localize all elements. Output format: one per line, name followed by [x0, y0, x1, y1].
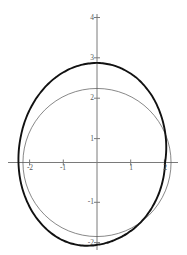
y-tick-label-2: 2 [90, 94, 94, 102]
plot-canvas: 4 3 2 1 -1 -2 -2 -1 1 2 [0, 0, 187, 255]
x-tick-label-neg1: -1 [60, 164, 66, 172]
x-tick-label-2: 2 [163, 164, 167, 172]
plot-svg [0, 0, 187, 255]
y-tick-label-1: 1 [90, 135, 94, 143]
y-tick-label-neg2: -2 [88, 239, 94, 247]
x-tick-label-1: 1 [129, 164, 133, 172]
y-tick-label-neg1: -1 [88, 198, 94, 206]
y-tick-label-3: 3 [90, 54, 94, 62]
x-tick-label-neg2: -2 [27, 164, 33, 172]
y-tick-label-4: 4 [90, 14, 94, 22]
series-outer-curve [18, 63, 166, 246]
